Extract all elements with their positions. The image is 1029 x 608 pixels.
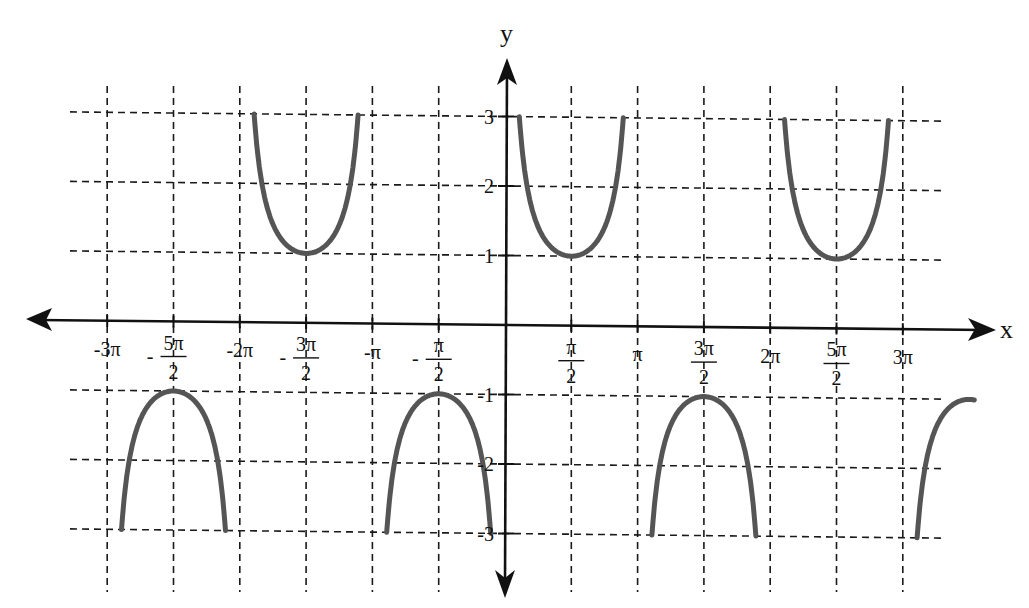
- x-tick-label: π2: [558, 336, 584, 387]
- svg-text:3π: 3π: [296, 333, 316, 355]
- svg-text:2: 2: [566, 365, 576, 387]
- x-tick-label: 3π2: [691, 337, 717, 388]
- svg-text:5π: 5π: [163, 332, 183, 354]
- y-axis-label: y: [500, 19, 513, 48]
- svg-text:2: 2: [301, 362, 311, 384]
- y-tick-label: 2: [484, 175, 494, 197]
- svg-text:3π: 3π: [694, 337, 714, 359]
- y-tick-label: 3: [484, 106, 494, 128]
- x-tick-label: -π: [364, 341, 381, 363]
- svg-text:-2π: -2π: [226, 339, 253, 361]
- y-axis: [505, 70, 507, 585]
- x-tick-label: 3π: [893, 346, 913, 368]
- y-tick-label: 1: [484, 245, 494, 267]
- svg-text:5π: 5π: [826, 338, 846, 360]
- svg-text:2: 2: [831, 367, 841, 389]
- y-tick-label: -3: [477, 523, 494, 545]
- x-tick-label: 3π2-: [279, 333, 319, 384]
- x-tick-label: π: [633, 343, 643, 365]
- svg-text:-π: -π: [364, 341, 381, 363]
- svg-text:-: -: [147, 345, 154, 367]
- svg-text:3π: 3π: [893, 346, 913, 368]
- x-axis-label: x: [1000, 315, 1013, 344]
- y-tick-label: -1: [477, 384, 494, 406]
- svg-text:π: π: [633, 343, 643, 365]
- x-tick-label: 5π2-: [147, 332, 187, 383]
- svg-text:2: 2: [699, 366, 709, 388]
- csc-branch: [917, 399, 974, 537]
- svg-text:-: -: [412, 347, 419, 369]
- x-tick-label: 2π: [760, 345, 780, 367]
- svg-text:2: 2: [169, 361, 179, 383]
- svg-text:-: -: [279, 346, 286, 368]
- svg-text:2π: 2π: [760, 345, 780, 367]
- x-axis: [38, 320, 985, 330]
- svg-text:2: 2: [434, 363, 444, 385]
- x-tick-label: -2π: [226, 339, 253, 361]
- csc-branch: [652, 397, 756, 536]
- x-tick-label: 5π2: [823, 338, 849, 389]
- x-tick-label: π2-: [412, 334, 452, 385]
- svg-text:-3π: -3π: [94, 338, 121, 360]
- svg-text:π: π: [434, 334, 444, 356]
- axes: [26, 58, 996, 598]
- svg-text:π: π: [566, 336, 576, 358]
- csc-chart: -3π5π2--2π3π2--ππ2-π2π3π22π5π23π321-1-2-…: [0, 0, 1029, 608]
- x-tick-label: -3π: [94, 338, 121, 360]
- y-tick-label: -2: [477, 453, 494, 475]
